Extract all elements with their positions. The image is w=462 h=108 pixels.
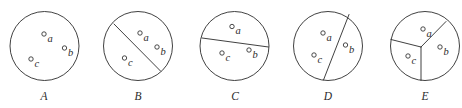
point-label-a-b: b	[68, 47, 73, 58]
divider-line-b-1	[114, 24, 161, 71]
point-label-c-c: c	[226, 52, 231, 63]
figure-container: abcAabcBabcCabcDabcE	[0, 0, 462, 108]
divider-line-e-2	[391, 40, 421, 48]
point-label-d-a: a	[327, 32, 332, 43]
circle-panel-a: abcA	[10, 12, 79, 103]
circle-panel-b: abcB	[104, 12, 173, 103]
point-label-a-a: a	[48, 33, 53, 44]
circles-figure-svg: abcAabcBabcCabcDabcE	[0, 0, 462, 108]
point-marker-d-c	[312, 53, 316, 57]
point-label-a-c: c	[35, 58, 40, 69]
point-label-b-b: b	[161, 46, 166, 57]
point-marker-d-b	[343, 43, 347, 47]
point-label-c-b: b	[253, 49, 258, 60]
point-marker-e-b	[438, 45, 442, 49]
point-label-e-a: a	[427, 28, 432, 39]
panels-group: abcAabcBabcCabcDabcE	[10, 12, 460, 103]
point-marker-a-c	[29, 57, 33, 61]
circle-panel-c: abcC	[200, 12, 269, 103]
panel-caption-d: D	[323, 90, 333, 102]
point-marker-a-a	[42, 32, 46, 36]
point-marker-d-a	[321, 31, 325, 35]
point-label-d-b: b	[349, 44, 354, 55]
divider-line-e-1	[421, 22, 446, 48]
divider-line-c-1	[202, 38, 269, 47]
panel-caption-e: E	[420, 90, 428, 102]
panel-caption-a: A	[39, 90, 48, 102]
point-marker-b-a	[138, 31, 142, 35]
circle-panel-e: abcE	[391, 12, 460, 103]
point-marker-e-c	[406, 54, 410, 58]
point-marker-c-c	[220, 51, 224, 55]
point-marker-a-b	[62, 46, 66, 50]
panel-caption-b: B	[134, 90, 141, 102]
point-marker-b-c	[122, 56, 126, 60]
panel-caption-c: C	[231, 90, 239, 102]
circle-panel-d: abcD	[294, 12, 363, 103]
point-label-b-a: a	[144, 32, 149, 43]
point-marker-c-a	[230, 24, 234, 28]
point-label-d-c: c	[318, 54, 323, 65]
circle-outline-e	[391, 12, 460, 81]
point-label-e-c: c	[412, 55, 417, 66]
point-marker-e-a	[421, 27, 425, 31]
point-marker-b-b	[155, 45, 159, 49]
point-label-b-c: c	[128, 57, 133, 68]
point-label-e-b: b	[444, 46, 449, 57]
point-label-c-a: a	[236, 25, 241, 36]
point-marker-c-b	[247, 48, 251, 52]
